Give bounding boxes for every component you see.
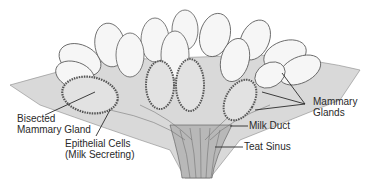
mammary-gland-illustration <box>0 0 372 181</box>
label-teat-sinus: Teat Sinus <box>244 141 291 152</box>
label-line: Epithelial Cells <box>65 138 134 149</box>
label-line: Mammary <box>313 96 357 107</box>
label-mammary-glands: Mammary Glands <box>313 96 357 118</box>
label-line: (Milk Secreting) <box>65 149 134 160</box>
label-milk-duct: Milk Duct <box>249 120 290 131</box>
label-line: Mammary Gland <box>17 124 91 135</box>
label-bisected-mammary-gland: Bisected Mammary Gland <box>17 113 91 135</box>
label-epithelial-cells: Epithelial Cells (Milk Secreting) <box>65 138 134 160</box>
label-line: Bisected <box>17 113 91 124</box>
label-line: Glands <box>313 107 357 118</box>
